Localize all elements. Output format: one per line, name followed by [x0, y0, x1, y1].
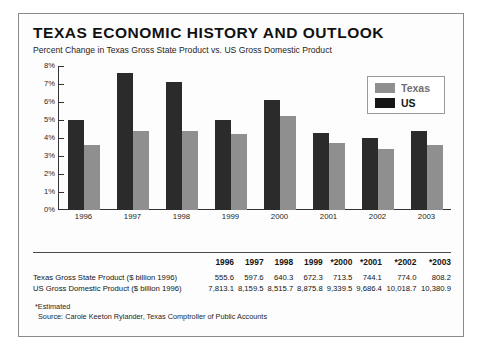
footnotes: *Estimated Source: Carole Keeton Rylande… [35, 302, 267, 322]
bar-group [304, 66, 353, 210]
table-column-header: 1998 [264, 257, 294, 272]
bar-us-1998 [182, 131, 198, 210]
table-column-header: *2002 [382, 257, 417, 272]
table-column-header: *2001 [352, 257, 382, 272]
table-cell: 713.5 [323, 272, 353, 284]
x-tick-label: 2003 [402, 212, 451, 221]
bar-us-2000 [280, 116, 296, 210]
table-cell: 555.6 [204, 272, 234, 284]
table-cell: 9,686.4 [352, 283, 382, 295]
y-axis-labels: 8%7%6%5%4%3%2%1%0% [33, 66, 55, 210]
bar-us-1996 [84, 145, 100, 210]
table-row-label: US Gross Domestic Product ($ billion 199… [33, 283, 204, 295]
y-tick-label: 0% [44, 206, 55, 214]
table-header-row: 1996199719981999*2000*2001*2002*2003 [33, 257, 451, 272]
table-cell: 774.0 [382, 272, 417, 284]
bar-texas-1999 [215, 120, 231, 210]
table-cell: 10,380.9 [416, 283, 451, 295]
table-cell: 640.3 [264, 272, 294, 284]
bar-us-2002 [378, 149, 394, 210]
bar-texas-2000 [264, 100, 280, 210]
chart-legend: Texas US [367, 76, 445, 114]
x-tick-label: 1997 [108, 212, 157, 221]
table-divider [33, 252, 451, 253]
table-head: 1996199719981999*2000*2001*2002*2003 [33, 257, 451, 272]
y-tick-label: 2% [44, 170, 55, 178]
x-tick-label: 2001 [304, 212, 353, 221]
bar-texas-2002 [362, 138, 378, 210]
bar-us-2001 [329, 143, 345, 210]
table-column-header: 1999 [293, 257, 323, 272]
legend-label-texas: Texas [401, 83, 430, 94]
bar-group [157, 66, 206, 210]
x-tick-label: 2002 [353, 212, 402, 221]
page-title: TEXAS ECONOMIC HISTORY AND OUTLOOK [33, 24, 384, 42]
bar-group [206, 66, 255, 210]
table-row: US Gross Domestic Product ($ billion 199… [33, 283, 451, 295]
table-row: Texas Gross State Product ($ billion 199… [33, 272, 451, 284]
bar-texas-1997 [117, 73, 133, 210]
bar-group [108, 66, 157, 210]
x-tick-label: 2000 [255, 212, 304, 221]
table-column-header: *2000 [323, 257, 353, 272]
legend-item-texas: Texas [375, 81, 444, 95]
y-tick-label: 3% [44, 152, 55, 160]
table-cell: 8,159.5 [234, 283, 264, 295]
data-table: 1996199719981999*2000*2001*2002*2003 Tex… [33, 257, 451, 295]
x-axis-labels: 19961997199819992000200120022003 [59, 212, 451, 221]
y-tick-label: 6% [44, 98, 55, 106]
figure-frame: TEXAS ECONOMIC HISTORY AND OUTLOOK Perce… [18, 13, 464, 337]
table-column-header: *2003 [416, 257, 451, 272]
table-corner-header [33, 257, 204, 272]
bar-texas-1996 [68, 120, 84, 210]
legend-label-us: US [401, 98, 416, 109]
x-tick-label: 1998 [157, 212, 206, 221]
table-row-label: Texas Gross State Product ($ billion 199… [33, 272, 204, 284]
estimated-note: *Estimated [35, 302, 267, 312]
table-cell: 808.2 [416, 272, 451, 284]
table-column-header: 1996 [204, 257, 234, 272]
table-cell: 8,515.7 [264, 283, 294, 295]
table-column-header: 1997 [234, 257, 264, 272]
table-cell: 10,018.7 [382, 283, 417, 295]
legend-swatch-us-icon [375, 98, 395, 108]
source-note: Source: Carole Keeton Rylander, Texas Co… [35, 312, 267, 322]
legend-swatch-texas-icon [375, 83, 395, 93]
table-cell: 597.6 [234, 272, 264, 284]
bar-texas-2003 [411, 131, 427, 210]
bar-texas-1998 [166, 82, 182, 210]
table-cell: 672.3 [293, 272, 323, 284]
y-tick-label: 5% [44, 116, 55, 124]
table-cell: 744.1 [352, 272, 382, 284]
x-tick-label: 1996 [59, 212, 108, 221]
bar-us-1999 [231, 134, 247, 210]
bar-group [59, 66, 108, 210]
x-tick-label: 1999 [206, 212, 255, 221]
table-cell: 8,875.8 [293, 283, 323, 295]
y-tick-label: 7% [44, 80, 55, 88]
y-tick-label: 4% [44, 134, 55, 142]
table-cell: 9,339.5 [323, 283, 353, 295]
bar-us-1997 [133, 131, 149, 210]
figure-subtitle: Percent Change in Texas Gross State Prod… [33, 45, 332, 55]
table-cell: 7,813.1 [204, 283, 234, 295]
bar-us-2003 [427, 145, 443, 210]
y-tick-label: 8% [44, 62, 55, 70]
table-body: Texas Gross State Product ($ billion 199… [33, 272, 451, 295]
y-tick-label: 1% [44, 188, 55, 196]
bar-texas-2001 [313, 133, 329, 210]
bar-group [255, 66, 304, 210]
legend-item-us: US [375, 96, 444, 110]
